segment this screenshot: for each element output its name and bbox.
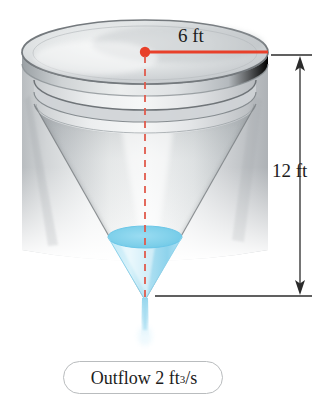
center-dot-icon xyxy=(140,47,150,57)
tank-illustration xyxy=(0,0,329,404)
outflow-text-prefix: Outflow 2 ft xyxy=(91,368,180,389)
outflow-stream xyxy=(138,298,152,346)
outflow-callout: Outflow 2 ft3/s xyxy=(63,361,223,394)
diameter-label: 6 ft xyxy=(178,26,204,45)
outflow-text-suffix: /s xyxy=(185,368,197,389)
water-volume xyxy=(108,226,182,300)
height-label: 12 ft xyxy=(272,161,307,180)
outflow-label: Outflow 2 ft3/s xyxy=(64,362,224,395)
conical-tank-figure: 6 ft 12 ft Outflow 2 ft3/s xyxy=(0,0,329,404)
